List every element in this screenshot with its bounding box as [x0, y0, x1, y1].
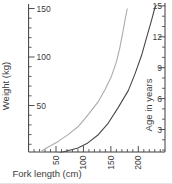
x-axis: 50100150200 — [34, 146, 160, 170]
age-tick-label: 12 — [153, 32, 163, 42]
growth-chart: 50100150200501001503691215Weight (kg)For… — [0, 0, 173, 184]
age-tick-label: 3 — [157, 125, 162, 135]
weight-curve — [37, 9, 128, 155]
growth-chart-figure: 50100150200501001503691215Weight (kg)For… — [0, 0, 173, 184]
right-axis: 3691215 — [153, 1, 165, 150]
left-axis: 50100150 — [29, 4, 51, 145]
x-tick-label: 50 — [51, 155, 61, 165]
age-tick-label: 9 — [157, 63, 162, 73]
weight-tick-label: 150 — [37, 4, 51, 14]
weight-tick-label: 50 — [37, 101, 47, 111]
x-tick-label: 200 — [133, 155, 143, 169]
left-axis-title: Weight (kg) — [0, 62, 11, 110]
weight-tick-label: 100 — [37, 52, 51, 62]
x-axis-title: Fork length (cm) — [12, 168, 81, 179]
age-tick-label: 6 — [157, 94, 162, 104]
x-tick-label: 150 — [106, 155, 116, 169]
right-axis-title: Age in years — [143, 78, 154, 131]
age-curve — [51, 5, 157, 156]
